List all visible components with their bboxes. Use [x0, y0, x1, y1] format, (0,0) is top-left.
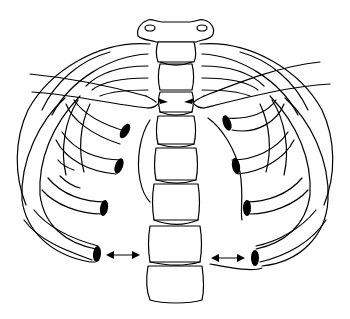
right-rib-stumps — [221, 114, 259, 266]
right-double-arrow — [211, 254, 245, 262]
left-double-arrow — [106, 251, 140, 259]
left-ribs — [17, 44, 150, 262]
left-rib-stumps — [92, 122, 132, 262]
right-ribs — [200, 44, 333, 270]
anatomy-diagram: Thoracic rib cage and spine (anterior vi… — [0, 0, 350, 319]
vertebral-column — [138, 19, 214, 303]
